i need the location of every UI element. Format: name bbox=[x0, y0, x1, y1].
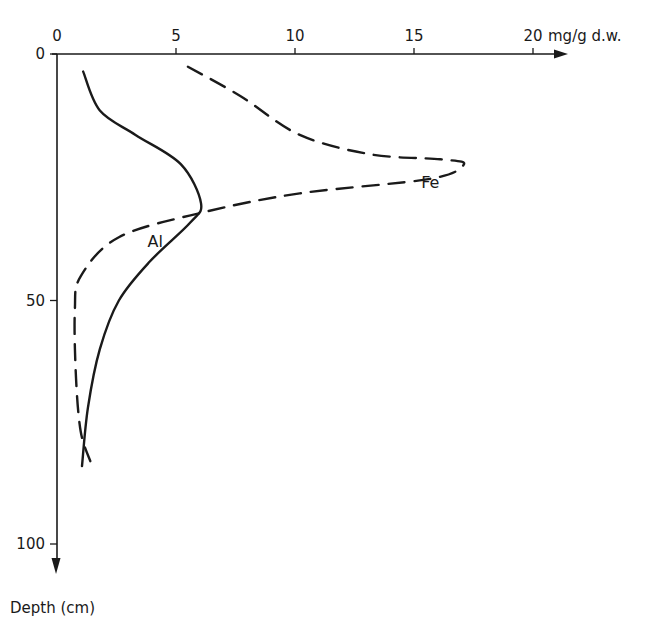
series-group bbox=[75, 67, 465, 466]
x-tick-label: 15 bbox=[404, 27, 423, 45]
y-tick-label: 0 bbox=[35, 45, 45, 63]
x-tick-label: 0 bbox=[52, 27, 62, 45]
y-axis-arrow-icon bbox=[52, 558, 61, 574]
series-label-al: Al bbox=[147, 232, 162, 251]
y-tick-label: 100 bbox=[16, 535, 45, 553]
x-axis-unit-label: mg/g d.w. bbox=[548, 27, 621, 45]
y-axis: 050100 Depth (cm) bbox=[10, 45, 95, 617]
y-tick-label: 50 bbox=[26, 292, 45, 310]
y-axis-title: Depth (cm) bbox=[10, 599, 95, 617]
x-axis: 05101520 mg/g d.w. bbox=[52, 27, 621, 59]
x-tick-label: 5 bbox=[171, 27, 181, 45]
depth-profile-chart: 05101520 mg/g d.w. 050100 Depth (cm) AlF… bbox=[0, 0, 647, 621]
series-labels: AlFe bbox=[147, 173, 439, 250]
series-line-al bbox=[82, 72, 201, 466]
x-tick-label: 10 bbox=[285, 27, 304, 45]
series-label-fe: Fe bbox=[421, 173, 439, 192]
series-line-fe bbox=[75, 67, 465, 461]
x-tick-label: 20 bbox=[523, 27, 542, 45]
x-axis-arrow-icon bbox=[554, 50, 568, 59]
